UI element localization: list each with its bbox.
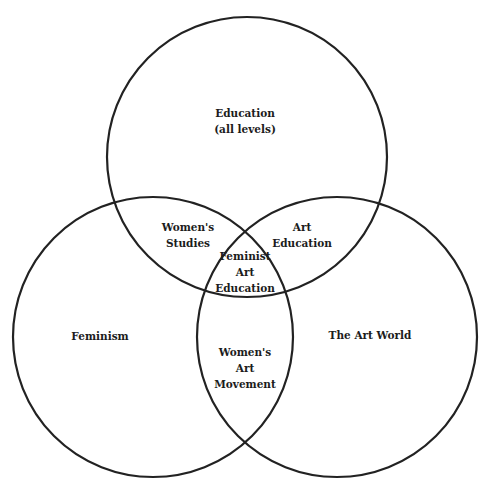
- label-feminist-art-education: Feminist Art Education: [215, 248, 275, 296]
- label-feminist-art-education-line-1: Feminist: [215, 248, 275, 264]
- label-womens-studies: Women's Studies: [162, 219, 215, 251]
- label-womens-art-movement-line-3: Movement: [214, 376, 276, 392]
- label-education-line-2: (all levels): [214, 121, 276, 137]
- label-feminist-art-education-line-2: Art: [215, 264, 275, 280]
- label-womens-studies-line-1: Women's: [162, 219, 215, 235]
- label-womens-studies-line-2: Studies: [162, 235, 215, 251]
- label-art-education: Art Education: [272, 219, 332, 251]
- label-feminist-art-education-line-3: Education: [215, 280, 275, 296]
- label-art-world: The Art World: [329, 327, 412, 343]
- label-feminism-line-1: Feminism: [71, 328, 128, 344]
- label-education-line-1: Education: [214, 105, 276, 121]
- label-art-education-line-1: Art: [272, 219, 332, 235]
- label-art-world-line-1: The Art World: [329, 327, 412, 343]
- venn-diagram: [0, 0, 489, 489]
- label-feminism: Feminism: [71, 328, 128, 344]
- label-womens-art-movement-line-2: Art: [214, 360, 276, 376]
- label-womens-art-movement-line-1: Women's: [214, 344, 276, 360]
- label-education: Education (all levels): [214, 105, 276, 137]
- label-art-education-line-2: Education: [272, 235, 332, 251]
- circle-feminism: [13, 197, 293, 477]
- label-womens-art-movement: Women's Art Movement: [214, 344, 276, 392]
